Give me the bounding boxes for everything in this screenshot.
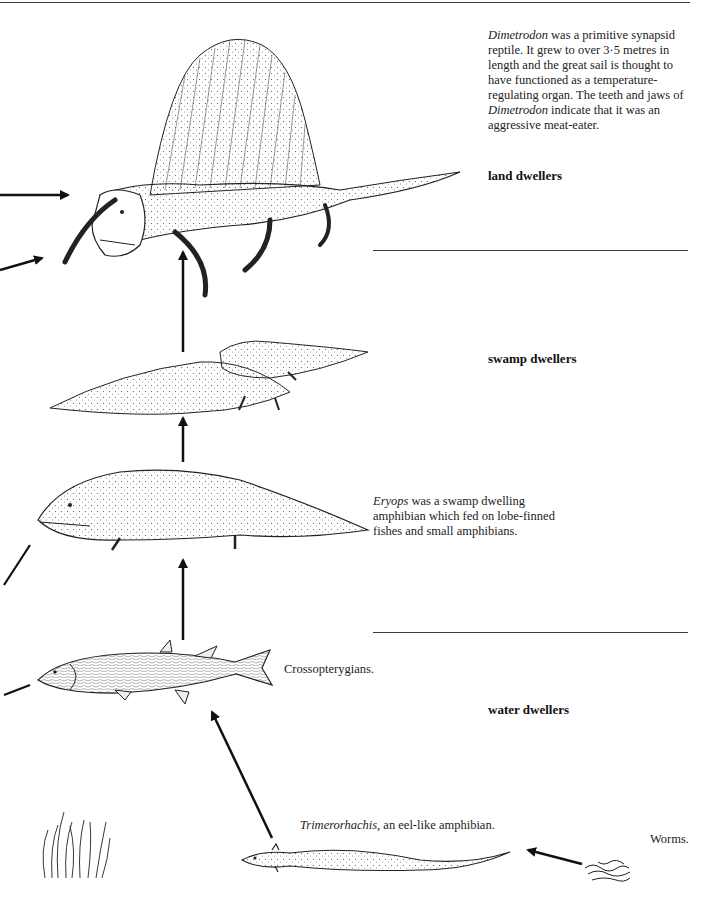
arrow-left-lower	[0, 258, 42, 270]
arrow-worms-to-eel	[528, 850, 582, 864]
seaweed-drawing	[43, 812, 110, 878]
eryops-drawing	[38, 470, 368, 550]
arrow-eel-to-fish	[212, 712, 272, 838]
swamp-reptiles-drawing	[50, 341, 368, 414]
evolution-illustration	[0, 0, 703, 900]
worms-drawing	[585, 860, 630, 881]
dimetrodon-drawing	[65, 39, 460, 295]
crossopterygian-drawing	[38, 640, 272, 704]
edge-stroke-eryops	[4, 545, 30, 585]
trimerorhachis-drawing	[242, 844, 510, 872]
edge-stroke-fish	[4, 685, 30, 695]
